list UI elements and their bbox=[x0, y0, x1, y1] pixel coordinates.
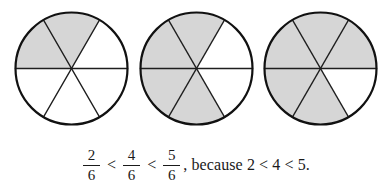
caption-tail-text: , because 2 < 4 < 5. bbox=[183, 157, 310, 173]
pie-chart-two-sixths bbox=[13, 10, 130, 127]
circle-models-row bbox=[0, 0, 391, 136]
relation-less-than-1: < bbox=[107, 157, 116, 173]
circle-model-four-sixths bbox=[138, 10, 255, 127]
denominator: 6 bbox=[165, 168, 179, 184]
fraction-two-sixths: 2 6 bbox=[83, 148, 100, 184]
caption: 2 6 < 4 6 < 5 6 , because 2 < 4 < 5. bbox=[0, 136, 391, 195]
numerator: 4 bbox=[125, 148, 139, 164]
pie-chart-five-sixths bbox=[262, 10, 379, 127]
numerator: 2 bbox=[85, 148, 99, 164]
relation-less-than-2: < bbox=[147, 157, 156, 173]
denominator: 6 bbox=[85, 168, 99, 184]
fraction-bar bbox=[123, 165, 140, 166]
pie-chart-four-sixths bbox=[138, 10, 255, 127]
circle-model-two-sixths bbox=[13, 10, 130, 127]
fraction-bar bbox=[163, 165, 180, 166]
denominator: 6 bbox=[125, 168, 139, 184]
numerator: 5 bbox=[165, 148, 179, 164]
circle-model-five-sixths bbox=[262, 10, 379, 127]
fraction-bar bbox=[83, 165, 100, 166]
fraction-five-sixths: 5 6 bbox=[163, 148, 180, 184]
fraction-four-sixths: 4 6 bbox=[123, 148, 140, 184]
fraction-comparison-figure: 2 6 < 4 6 < 5 6 , because 2 < 4 < 5. bbox=[0, 0, 391, 195]
